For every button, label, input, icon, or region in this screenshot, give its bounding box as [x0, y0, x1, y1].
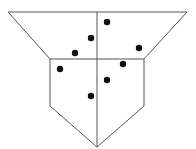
dot: [104, 19, 110, 25]
dot: [104, 77, 110, 83]
dot: [120, 61, 126, 67]
dot: [88, 35, 94, 41]
diagram-canvas: [0, 0, 196, 149]
dot: [57, 66, 63, 72]
dot: [136, 45, 142, 51]
dot: [72, 50, 78, 56]
pentagon-trapezoid-dot-diagram: [0, 0, 196, 149]
dot: [88, 93, 94, 99]
